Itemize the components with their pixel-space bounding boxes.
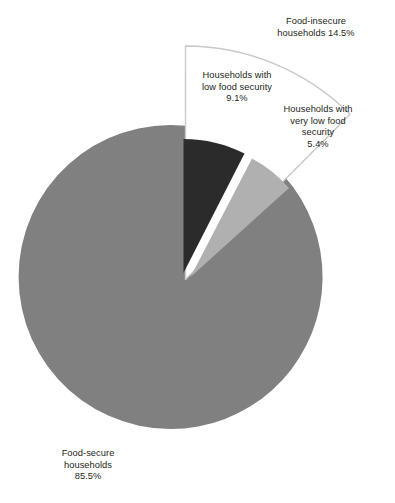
pie-chart-canvas [0,0,395,503]
pie-chart-figure: Food-insecure households 14.5% Household… [0,0,395,503]
